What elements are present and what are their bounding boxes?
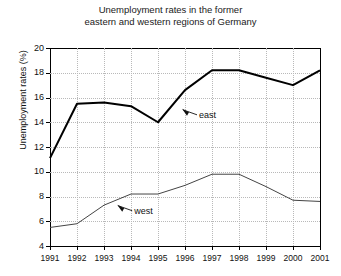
x-tick-mark: [266, 246, 267, 250]
y-tick-label: 12: [34, 143, 44, 152]
y-tick-mark: [46, 147, 50, 148]
y-tick-mark: [46, 122, 50, 123]
x-tick-mark: [131, 246, 132, 250]
x-tick-mark: [104, 246, 105, 250]
y-tick-label: 20: [34, 44, 44, 53]
annotation-arrows: [50, 48, 320, 246]
x-tick-mark: [185, 246, 186, 250]
y-tick-mark: [46, 172, 50, 173]
x-tick-label: 2001: [304, 254, 336, 263]
y-tick-label: 10: [34, 167, 44, 176]
plot-right-edge: [320, 48, 321, 247]
y-tick-mark: [46, 73, 50, 74]
plot-area: [50, 48, 320, 246]
y-tick-mark: [46, 197, 50, 198]
chart-title-line-2: eastern and western regions of Germany: [0, 16, 341, 28]
y-tick-label: 18: [34, 68, 44, 77]
x-tick-mark: [293, 246, 294, 250]
y-tick-mark: [46, 98, 50, 99]
x-tick-mark: [158, 246, 159, 250]
arrow-head-icon: [117, 205, 124, 212]
x-tick-mark: [320, 246, 321, 250]
y-tick-label: 16: [34, 93, 44, 102]
y-tick-label: 8: [39, 192, 44, 201]
arrow-head-icon: [182, 109, 189, 116]
y-tick-label: 6: [39, 217, 44, 226]
chart-title-line-1: Unemployment rates in the former: [0, 4, 341, 16]
y-tick-mark: [46, 221, 50, 222]
x-tick-mark: [212, 246, 213, 250]
chart-container: Unemployment rates in the former eastern…: [0, 0, 341, 276]
series-label-east: east: [199, 111, 216, 120]
y-tick-mark: [46, 48, 50, 49]
y-tick-label: 4: [39, 242, 44, 251]
x-tick-mark: [50, 246, 51, 250]
series-label-west: west: [134, 207, 153, 216]
x-tick-mark: [239, 246, 240, 250]
x-tick-mark: [77, 246, 78, 250]
chart-title: Unemployment rates in the former eastern…: [0, 4, 341, 28]
y-tick-label: 14: [34, 118, 44, 127]
y-axis-title: Unemployment rates (%): [18, 30, 28, 170]
